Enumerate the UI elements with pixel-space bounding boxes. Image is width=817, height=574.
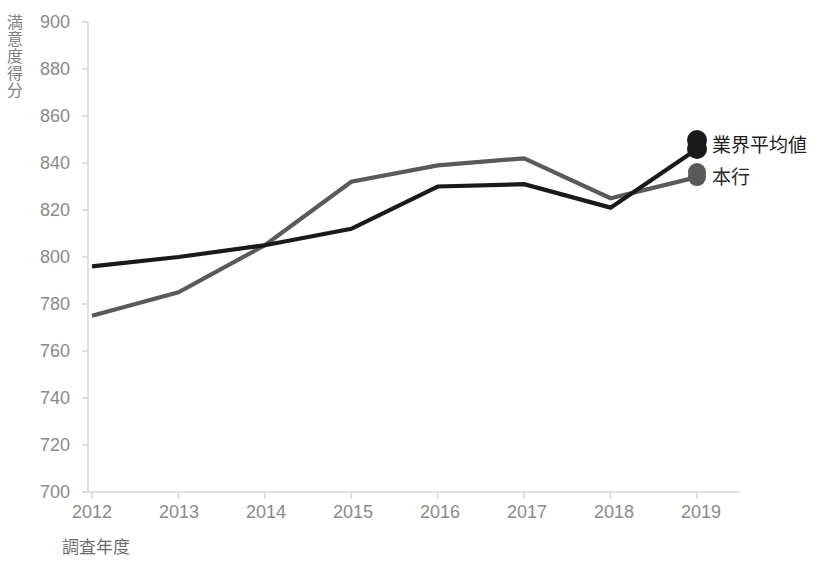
- series-line-industry-average: [92, 158, 697, 315]
- y-tick-marks: [82, 22, 88, 492]
- x-tick-marks: [92, 492, 697, 499]
- legend-marker-industry-average: [687, 130, 707, 150]
- legend-marker-our-bank: [688, 163, 706, 181]
- plot-area: [0, 0, 817, 574]
- legend-label-our-bank: 本行: [712, 162, 750, 189]
- series-line-our-bank: [92, 149, 697, 267]
- legend-label-industry-average: 業界平均値: [712, 130, 807, 157]
- line-chart: 満 意 度 得 分 調査年度 900 880 860 840 820 800 7…: [0, 0, 817, 574]
